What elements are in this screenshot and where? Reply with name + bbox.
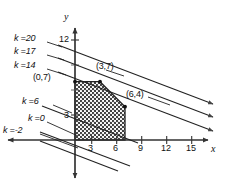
x-tick-label-9: 9 <box>138 143 143 153</box>
k-label-14: k =14 <box>14 61 35 70</box>
y-tick-label-3: 3 <box>64 110 69 120</box>
x-tick-label-6: 6 <box>113 143 118 153</box>
k-label-20: k =20 <box>14 34 35 43</box>
k-line-neg2 <box>40 141 118 171</box>
k-label-17: k =17 <box>14 47 35 56</box>
y-tick-label-12: 12 <box>59 34 69 44</box>
graph-figure: k =20 k =17 k =14 k =6 k =0 k =-2 (0,7) … <box>0 0 228 183</box>
y-axis-label: y <box>64 11 68 22</box>
k-label-neg2: k =-2 <box>3 126 22 135</box>
graph-canvas <box>0 0 228 183</box>
k-label-6: k =6 <box>22 97 38 106</box>
feasible-region <box>75 82 125 140</box>
k-label-0: k =0 <box>28 114 44 123</box>
x-tick-label-3: 3 <box>88 143 93 153</box>
vertex-label-6-4: (6,4) <box>126 90 144 99</box>
x-axis-label: x <box>211 143 215 154</box>
x-tick-label-15: 15 <box>186 143 196 153</box>
x-tick-label-12: 12 <box>161 143 171 153</box>
vertex-label-0-7: (0,7) <box>33 73 51 82</box>
vertex-label-3-7: (3,7) <box>96 62 114 71</box>
